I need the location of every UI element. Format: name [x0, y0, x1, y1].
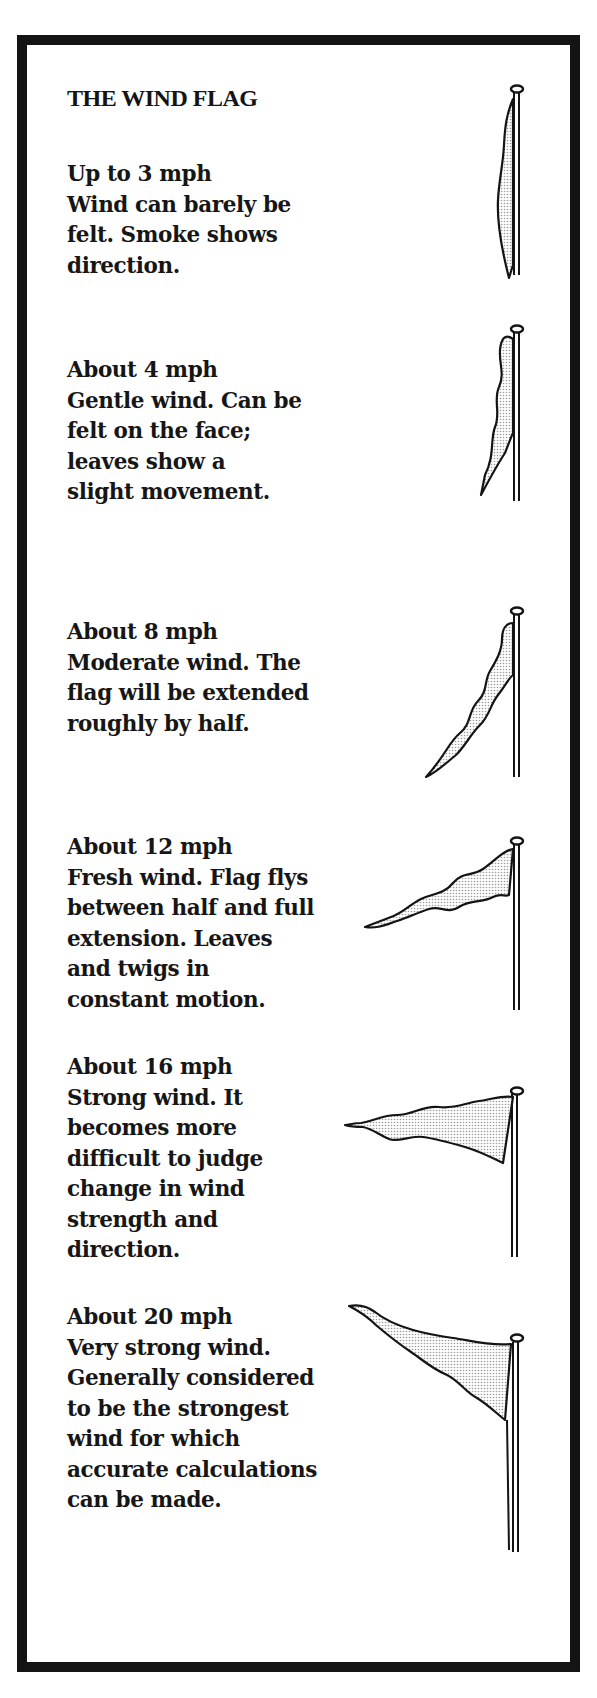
wind-description-line: change in wind: [67, 1174, 263, 1205]
wind-speed-label: About 12 mph: [67, 832, 314, 863]
wind-description-line: Strong wind. It: [67, 1083, 263, 1114]
wind-description-line: to be the strongest: [67, 1394, 317, 1425]
wind-description-line: and twigs in: [67, 954, 314, 985]
wind-speed-label: About 4 mph: [67, 355, 302, 386]
wind-entry-16mph: About 16 mph Strong wind. It becomes mor…: [67, 1052, 263, 1266]
fully-extended-flag-icon: [327, 1085, 527, 1260]
wind-speed-label: About 16 mph: [67, 1052, 263, 1083]
wind-speed-label: About 20 mph: [67, 1302, 317, 1333]
raised-flag-icon: [327, 1300, 527, 1590]
wind-description-line: Very strong wind.: [67, 1333, 317, 1364]
wind-description-line: Generally considered: [67, 1363, 317, 1394]
half-extended-flag-icon: [412, 605, 527, 795]
wind-flag-chart-frame: THE WIND FLAG Up to 3 mph Wind can barel…: [17, 35, 580, 1672]
wind-description-line: roughly by half.: [67, 709, 309, 740]
wind-description-line: Moderate wind. The: [67, 648, 309, 679]
wind-description-line: extension. Leaves: [67, 924, 314, 955]
wind-entry-8mph: About 8 mph Moderate wind. The flag will…: [67, 617, 309, 739]
wind-description-line: difficult to judge: [67, 1144, 263, 1175]
wind-description-line: Gentle wind. Can be: [67, 386, 302, 417]
wind-description-line: can be made.: [67, 1485, 317, 1516]
wind-description-line: leaves show a: [67, 447, 302, 478]
wind-description-line: becomes more: [67, 1113, 263, 1144]
wind-entry-20mph: About 20 mph Very strong wind. Generally…: [67, 1302, 317, 1516]
wind-speed-label: Up to 3 mph: [67, 159, 291, 190]
wind-description-line: Fresh wind. Flag flys: [67, 863, 314, 894]
wind-description-line: felt on the face;: [67, 416, 302, 447]
wind-entry-4mph: About 4 mph Gentle wind. Can be felt on …: [67, 355, 302, 508]
slightly-lifted-flag-icon: [457, 325, 527, 505]
wind-description-line: Wind can barely be: [67, 190, 291, 221]
wind-description-line: strength and: [67, 1205, 263, 1236]
wind-description-line: accurate calculations: [67, 1455, 317, 1486]
wind-description-line: flag will be extended: [67, 678, 309, 709]
wind-description-line: direction.: [67, 251, 291, 282]
wind-description-line: slight movement.: [67, 477, 302, 508]
wind-description-line: between half and full: [67, 893, 314, 924]
page-title: THE WIND FLAG: [67, 85, 257, 112]
wind-description-line: constant motion.: [67, 985, 314, 1016]
wind-entry-12mph: About 12 mph Fresh wind. Flag flys betwe…: [67, 832, 314, 1015]
wind-description-line: wind for which: [67, 1424, 317, 1455]
wind-speed-label: About 8 mph: [67, 617, 309, 648]
wind-description-line: felt. Smoke shows: [67, 220, 291, 251]
mostly-extended-flag-icon: [347, 835, 527, 1020]
limp-flag-icon: [467, 85, 527, 300]
wind-entry-3mph: Up to 3 mph Wind can barely be felt. Smo…: [67, 159, 291, 281]
wind-description-line: direction.: [67, 1235, 263, 1266]
